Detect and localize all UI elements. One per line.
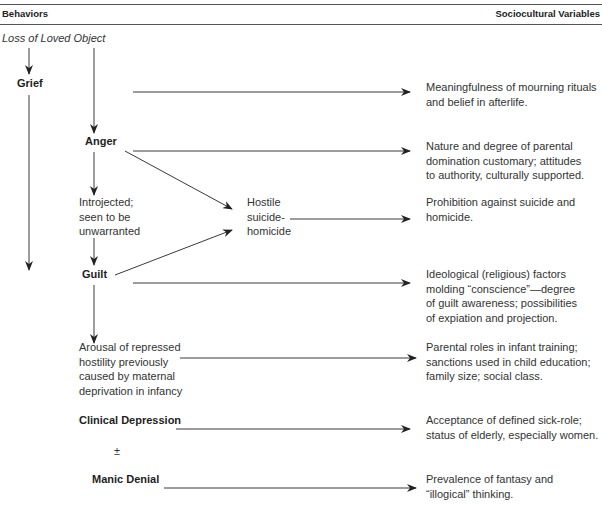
node-clinical-depression: Clinical Depression <box>79 413 181 428</box>
node-manic-denial: Manic Denial <box>92 472 159 487</box>
node-guilt: Guilt <box>82 267 107 282</box>
node-anger: Anger <box>85 134 117 149</box>
node-grief: Grief <box>17 76 43 91</box>
plus-minus-sign: ± <box>114 444 120 459</box>
